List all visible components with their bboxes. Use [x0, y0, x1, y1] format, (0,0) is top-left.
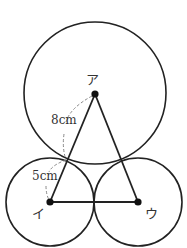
label-a: ア — [86, 72, 99, 87]
label-8cm: 8cm — [51, 113, 77, 127]
label-i: イ — [32, 206, 45, 221]
point-i — [46, 198, 53, 205]
point-a — [91, 90, 98, 97]
label-u: ウ — [145, 206, 158, 221]
segment-a-i — [50, 94, 95, 202]
segment-a-u — [95, 94, 138, 202]
dimension-8cm-arc — [63, 96, 92, 160]
label-5cm: 5cm — [32, 169, 58, 183]
point-u — [134, 198, 141, 205]
circles-diagram: ア イ ウ 8cm 5cm — [0, 0, 187, 248]
